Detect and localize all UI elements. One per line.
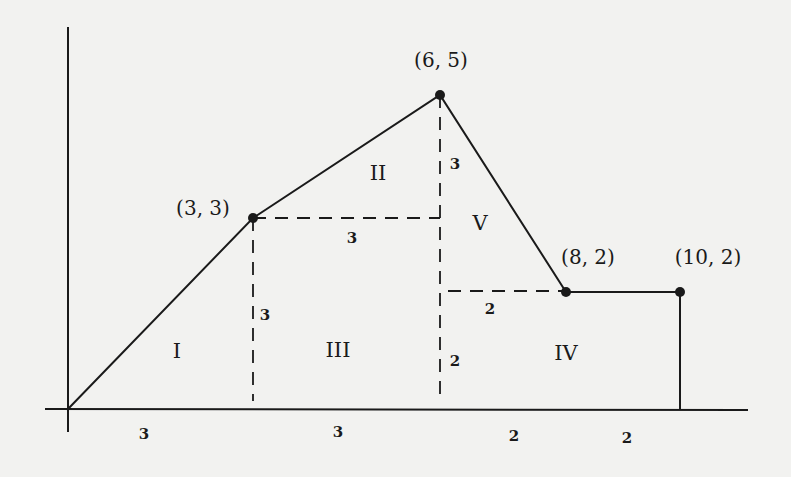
- point-label-8-2: (8, 2): [561, 245, 615, 269]
- x-axis: [45, 409, 748, 410]
- region-label-IV: IV: [554, 341, 577, 365]
- point-10-2-dot: [675, 287, 685, 297]
- region-label-III: III: [326, 338, 351, 362]
- dim-vertical-x3: 3: [260, 306, 270, 324]
- point-6-5-dot: [435, 90, 445, 100]
- point-label-6-5: (6, 5): [414, 48, 468, 72]
- point-label-10-2: (10, 2): [675, 245, 742, 269]
- point-label-3-3: (3, 3): [176, 196, 230, 220]
- region-label-II: II: [370, 161, 387, 185]
- dim-vertical-x6-lower: 2: [450, 352, 460, 370]
- dim-horizontal-y2: 2: [485, 300, 495, 318]
- region-label-V: V: [472, 211, 487, 235]
- region-label-I: I: [173, 339, 181, 363]
- dim-x-axis-3: 2: [509, 427, 519, 445]
- dim-x-axis-1: 3: [139, 425, 149, 443]
- point-8-2-dot: [561, 287, 571, 297]
- dim-x-axis-2: 3: [333, 423, 343, 441]
- area-diagram: (3, 3) (6, 5) (8, 2) (10, 2) I II III IV…: [0, 0, 791, 477]
- dim-horizontal-y3: 3: [347, 229, 357, 247]
- dim-x-axis-4: 2: [622, 429, 632, 447]
- dim-vertical-x6-upper: 3: [450, 155, 460, 173]
- diagram-graphics: [0, 0, 791, 477]
- point-3-3-dot: [248, 213, 258, 223]
